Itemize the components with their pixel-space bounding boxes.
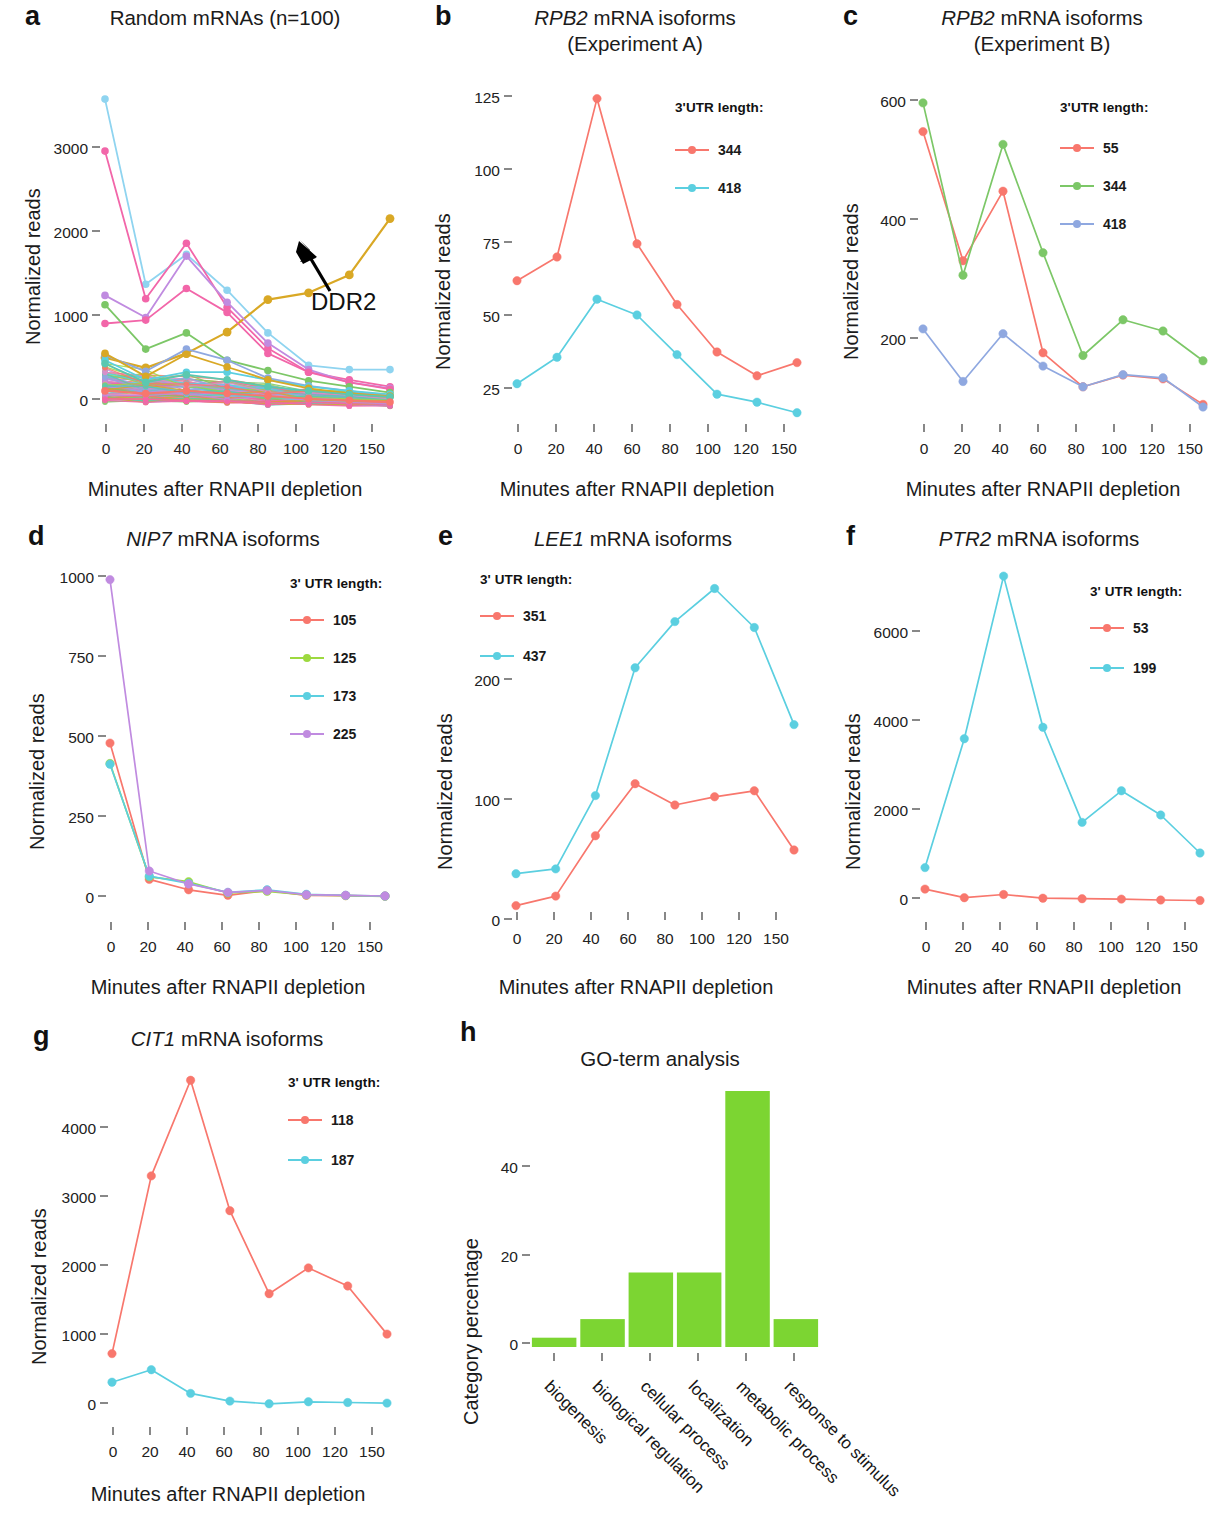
series-point-437	[671, 617, 679, 625]
series-point-199	[921, 863, 929, 871]
panel-e: e LEE1 mRNA isoforms Normalized reads 20…	[410, 510, 820, 1005]
legend-item-105[interactable]: 105	[290, 601, 382, 639]
series-point-351	[591, 832, 599, 840]
panel-a-xtick-120: 120	[314, 440, 354, 458]
legend-label: 418	[1103, 216, 1126, 232]
legend-item-351[interactable]: 351	[480, 596, 572, 636]
series-point-344	[553, 253, 561, 261]
panel-c-xtick-60: 60	[1018, 440, 1058, 458]
legend-item-125[interactable]: 125	[290, 639, 382, 677]
panel-c-xtick-100: 100	[1094, 440, 1134, 458]
panel-b-legend: 3'UTR length: 344418	[675, 100, 764, 207]
series-point-418	[1159, 374, 1167, 382]
legend-item-187[interactable]: 187	[288, 1140, 380, 1180]
panel-e-title-rest: mRNA isoforms	[590, 527, 732, 550]
series-point-344	[713, 348, 721, 356]
legend-item-55[interactable]: 55	[1060, 129, 1149, 167]
bar-cellular-process	[629, 1273, 674, 1348]
legend-swatch-icon	[290, 690, 324, 702]
series-point-199	[999, 572, 1007, 580]
legend-item-418[interactable]: 418	[675, 169, 764, 207]
legend-item-225[interactable]: 225	[290, 715, 382, 753]
series-point-418	[713, 390, 721, 398]
series-point-344	[1199, 357, 1207, 365]
panel-g-ytick-3000: 3000	[40, 1189, 96, 1207]
panel-b-ytick-100: 100	[450, 162, 500, 180]
legend-item-199[interactable]: 199	[1090, 648, 1182, 688]
panel-g-xtick-0: 0	[93, 1443, 133, 1461]
panel-d-legend-items: 105125173225	[290, 601, 382, 753]
panel-h-title: GO-term analysis	[510, 1046, 810, 1072]
legend-item-173[interactable]: 173	[290, 677, 382, 715]
legend-label: 351	[523, 608, 546, 624]
panel-f-xtick-100: 100	[1091, 938, 1131, 956]
panel-c-xlabel: Minutes after RNAPII depletion	[873, 478, 1213, 501]
series-point-53	[1078, 895, 1086, 903]
series-point-418	[1199, 403, 1207, 411]
series-point-351	[512, 901, 520, 909]
legend-item-53[interactable]: 53	[1090, 608, 1182, 648]
panel-a-ytick-2000: 2000	[38, 224, 88, 242]
series-point-344	[1039, 249, 1047, 257]
panel-c: c RPB2 mRNA isoforms (Experiment B) Norm…	[820, 0, 1227, 510]
series-point-55	[1039, 349, 1047, 357]
series-point-teal-low	[183, 371, 191, 379]
panel-g-title: CIT1 mRNA isoforms	[62, 1026, 392, 1052]
legend-swatch-icon	[675, 144, 709, 156]
figure-grid: a Random mRNAs (n=100) Normalized reads …	[0, 0, 1227, 1518]
panel-e-xlabel: Minutes after RNAPII depletion	[466, 976, 806, 999]
series-point-magenta	[142, 316, 150, 324]
series-point-53	[999, 890, 1007, 898]
series-point-199	[1157, 811, 1165, 819]
series-point-173	[106, 760, 114, 768]
series-point-green	[142, 345, 150, 353]
panel-e-title: LEE1 mRNA isoforms	[468, 526, 798, 552]
panel-b-xtick-60: 60	[612, 440, 652, 458]
panel-g-xtick-80: 80	[241, 1443, 281, 1461]
legend-label: 437	[523, 648, 546, 664]
panel-g-letter: g	[33, 1023, 50, 1050]
series-point-118	[383, 1330, 391, 1338]
panel-a-ddr2-label: DDR2	[311, 288, 376, 316]
series-point-418	[1119, 370, 1127, 378]
legend-swatch-icon	[290, 728, 324, 740]
series-point-437	[750, 623, 758, 631]
panel-a-xtick-80: 80	[238, 440, 278, 458]
panel-d-xtick-120: 120	[313, 938, 353, 956]
series-point-418	[553, 353, 561, 361]
panel-b-ytick-75: 75	[450, 235, 500, 253]
series-point-351	[552, 892, 560, 900]
series-point-225	[224, 888, 232, 896]
panel-d-xtick-20: 20	[128, 938, 168, 956]
legend-item-437[interactable]: 437	[480, 636, 572, 676]
panel-c-xtick-20: 20	[942, 440, 982, 458]
series-point-351	[710, 793, 718, 801]
legend-item-344[interactable]: 344	[675, 131, 764, 169]
panel-f-legend: 3' UTR length: 53199	[1090, 584, 1182, 688]
legend-label: 225	[333, 726, 356, 742]
panel-d-ytick-250: 250	[42, 809, 94, 827]
series-point-magenta	[223, 309, 231, 317]
panel-f-ylabel: Normalized reads	[842, 713, 865, 870]
background-series-point	[184, 398, 190, 404]
series-point-418	[919, 325, 927, 333]
panel-b-ytick-50: 50	[450, 308, 500, 326]
series-point-418	[959, 377, 967, 385]
series-point-437	[631, 664, 639, 672]
series-point-199	[1078, 818, 1086, 826]
bar-localization	[677, 1273, 722, 1348]
legend-item-418[interactable]: 418	[1060, 205, 1149, 243]
panel-e-xtick-100: 100	[682, 930, 722, 948]
legend-item-344[interactable]: 344	[1060, 167, 1149, 205]
legend-label: 173	[333, 688, 356, 704]
panel-e-legend-title: 3' UTR length:	[480, 572, 572, 587]
panel-e-legend: 3' UTR length: 351437	[480, 572, 572, 676]
legend-item-118[interactable]: 118	[288, 1100, 380, 1140]
legend-swatch-icon	[288, 1154, 322, 1166]
series-point-437	[552, 865, 560, 873]
panel-b-legend-title: 3'UTR length:	[675, 100, 764, 115]
panel-c-title-line1: RPB2 mRNA isoforms	[872, 5, 1212, 31]
panel-f-ytick-0: 0	[852, 891, 908, 909]
panel-c-xtick-0: 0	[904, 440, 944, 458]
series-point-118	[186, 1076, 194, 1084]
